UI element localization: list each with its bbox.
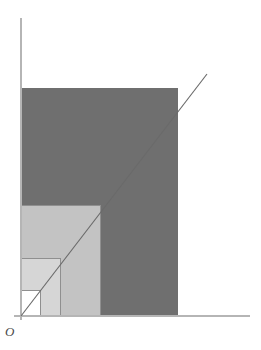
origin-label: O [5,324,15,339]
diagram-svg: O [0,0,261,350]
figure-canvas: O [0,0,261,350]
